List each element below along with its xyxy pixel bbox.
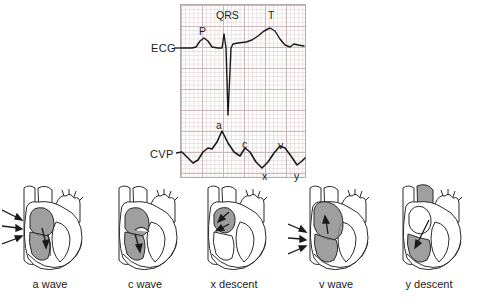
ecg-qrs-complex-label: QRS: [216, 9, 239, 21]
right-atrium-shaded: [30, 208, 54, 236]
waveform-panel: ECG CVP P QRS T a c v x y: [0, 0, 330, 182]
right-atrium-open: [409, 206, 431, 234]
ecg-row-label: ECG: [151, 42, 176, 54]
cvp-x-descent-label: x: [262, 170, 267, 182]
external-arrows: [2, 210, 22, 244]
heart-caption-a-wave: a wave: [2, 278, 98, 290]
cvp-c-wave-label: c: [242, 138, 247, 150]
cvp-leadin-line: [176, 152, 182, 153]
right-atrium-shaded: [125, 208, 149, 236]
heart-diagram-y-descent: [381, 182, 477, 278]
cvp-y-descent-label: y: [294, 170, 299, 182]
heart-caption-v-wave: v wave: [288, 278, 384, 290]
heart-panel-x-descent: x descent: [186, 182, 282, 300]
heart-caption-x-descent: x descent: [186, 278, 282, 290]
ecg-t-wave-label: T: [268, 9, 274, 21]
heart-panel-c-wave: c wave: [97, 182, 193, 300]
ecg-trace: [182, 28, 304, 115]
heart-diagram-a-wave: [2, 182, 98, 278]
heart-panel-a-wave: a wave: [2, 182, 98, 300]
heart-diagram-v-wave: [288, 182, 384, 278]
cvp-a-wave-label: a: [216, 119, 222, 131]
cvp-v-wave-label: v: [278, 139, 283, 151]
heart-diagram-row: a wave: [0, 182, 481, 300]
heart-caption-c-wave: c wave: [97, 278, 193, 290]
heart-caption-y-descent: y descent: [381, 278, 477, 290]
heart-panel-y-descent: y descent: [381, 182, 477, 300]
ecg-p-wave-label: P: [199, 25, 206, 37]
cvp-row-label: CVP: [150, 148, 174, 160]
figure-root: ECG CVP P QRS T a c v x y: [0, 0, 481, 300]
heart-panel-v-wave: v wave: [288, 182, 384, 300]
heart-diagram-x-descent: [186, 182, 282, 278]
external-arrows: [288, 224, 306, 254]
heart-diagram-c-wave: [97, 182, 193, 278]
